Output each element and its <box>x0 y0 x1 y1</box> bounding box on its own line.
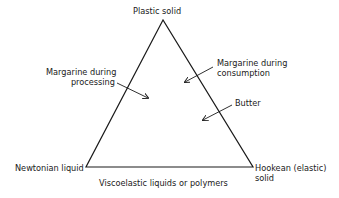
label-margarine-consumption: Margarine during consumption <box>217 58 287 78</box>
label-butter: Butter <box>235 98 261 108</box>
arrow-margarine-processing <box>117 83 148 98</box>
label-margarine-processing: Margarine during processing <box>46 67 115 87</box>
vertex-label-plastic-solid: Plastic solid <box>133 6 181 16</box>
arrow-butter <box>203 105 232 120</box>
vertex-label-newtonian-liquid: Newtonian liquid <box>15 163 84 173</box>
triangle-outline <box>86 20 253 167</box>
vertex-label-hookean-solid: Hookean (elastic) solid <box>255 163 326 183</box>
label-margarine-consumption-line2: consumption <box>217 68 287 78</box>
vertex-label-hookean-line2: solid <box>255 173 326 183</box>
vertex-label-hookean-line1: Hookean (elastic) <box>255 163 326 173</box>
edge-label-viscoelastic: Viscoelastic liquids or polymers <box>99 178 228 188</box>
rheology-triangle-diagram: Plastic solid Newtonian liquid Hookean (… <box>0 0 339 198</box>
label-margarine-processing-line1: Margarine during <box>46 67 115 77</box>
label-margarine-processing-line2: processing <box>46 77 115 87</box>
label-margarine-consumption-line1: Margarine during <box>217 58 287 68</box>
